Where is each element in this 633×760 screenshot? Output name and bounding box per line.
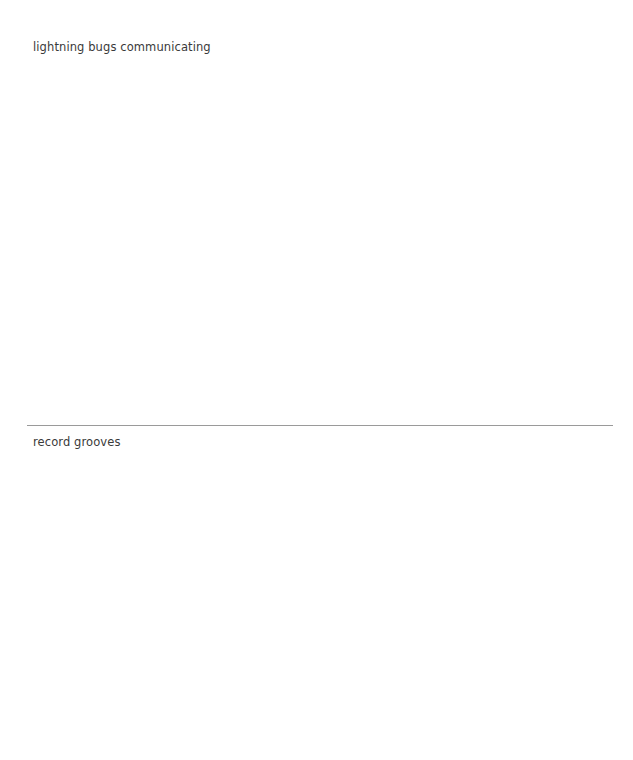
section-caption: lightning bugs communicating (33, 40, 211, 54)
section-record-grooves: record grooves (0, 426, 633, 760)
section-lightning-bugs: lightning bugs communicating (0, 0, 633, 424)
section-caption: record grooves (33, 435, 121, 449)
